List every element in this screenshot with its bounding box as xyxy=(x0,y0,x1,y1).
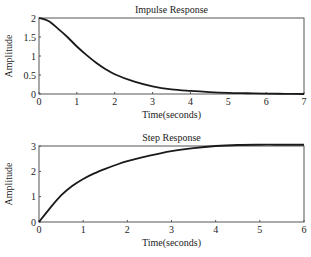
series-line-step xyxy=(39,145,304,222)
y-tick-label: 2 xyxy=(31,13,36,24)
step-response-plot: Step Response01234560123Time(seconds)Amp… xyxy=(3,132,307,249)
x-tick-label: 5 xyxy=(226,96,231,107)
plot-frame xyxy=(39,146,304,222)
chart-canvas: Impulse Response0123456700.511.52Time(se… xyxy=(0,0,311,257)
x-tick-label: 6 xyxy=(302,224,307,235)
y-tick-label: 2 xyxy=(31,166,36,177)
x-axis-label: Time(seconds) xyxy=(142,109,201,121)
x-tick-label: 7 xyxy=(302,96,307,107)
x-tick-label: 6 xyxy=(264,96,269,107)
x-tick-label: 3 xyxy=(169,224,174,235)
x-tick-label: 1 xyxy=(81,224,86,235)
series-line-impulse xyxy=(39,18,304,94)
y-tick-label: 0.5 xyxy=(24,70,37,81)
y-tick-label: 1.5 xyxy=(24,32,37,43)
y-axis-label: Amplitude xyxy=(3,34,14,77)
x-tick-label: 4 xyxy=(188,96,193,107)
x-tick-label: 0 xyxy=(37,224,42,235)
x-tick-label: 2 xyxy=(112,96,117,107)
y-axis-label: Amplitude xyxy=(3,162,14,205)
y-tick-label: 1 xyxy=(31,51,36,62)
impulse-response-plot: Impulse Response0123456700.511.52Time(se… xyxy=(3,4,307,121)
x-tick-label: 5 xyxy=(257,224,262,235)
x-tick-label: 4 xyxy=(213,224,218,235)
chart-title: Step Response xyxy=(142,132,201,143)
y-tick-label: 3 xyxy=(31,141,36,152)
x-tick-label: 3 xyxy=(150,96,155,107)
plot-frame xyxy=(39,18,304,94)
x-tick-label: 0 xyxy=(37,96,42,107)
y-tick-label: 0 xyxy=(31,217,36,228)
x-tick-label: 2 xyxy=(125,224,130,235)
chart-title: Impulse Response xyxy=(135,4,209,15)
y-tick-label: 1 xyxy=(31,191,36,202)
y-tick-label: 0 xyxy=(31,89,36,100)
x-tick-label: 1 xyxy=(74,96,79,107)
x-axis-label: Time(seconds) xyxy=(142,237,201,249)
